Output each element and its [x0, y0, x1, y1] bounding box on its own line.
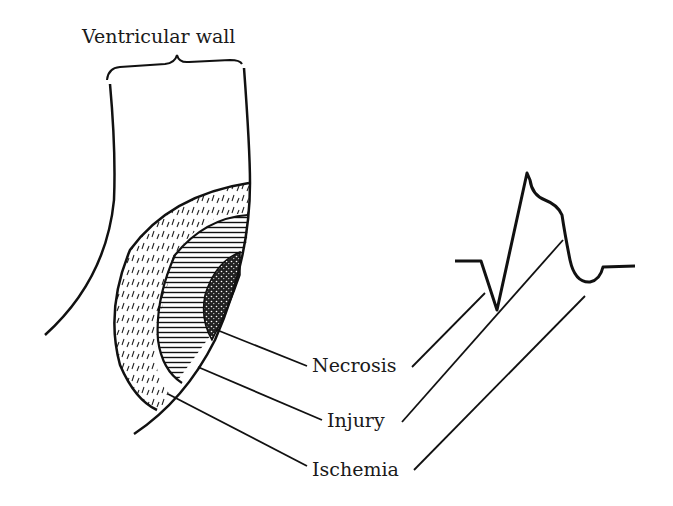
ventricular-wall-diagram: Ventricular wall Necrosis Injury Ischemi…	[0, 0, 673, 506]
injury-label: Injury	[327, 411, 385, 430]
necrosis-label: Necrosis	[312, 356, 397, 375]
left-wall-line	[45, 84, 115, 335]
ischemia-label: Ischemia	[312, 460, 399, 479]
ecg-waveform	[455, 173, 635, 310]
brace-icon	[107, 55, 242, 80]
ventricular-wall-label: Ventricular wall	[82, 27, 235, 46]
